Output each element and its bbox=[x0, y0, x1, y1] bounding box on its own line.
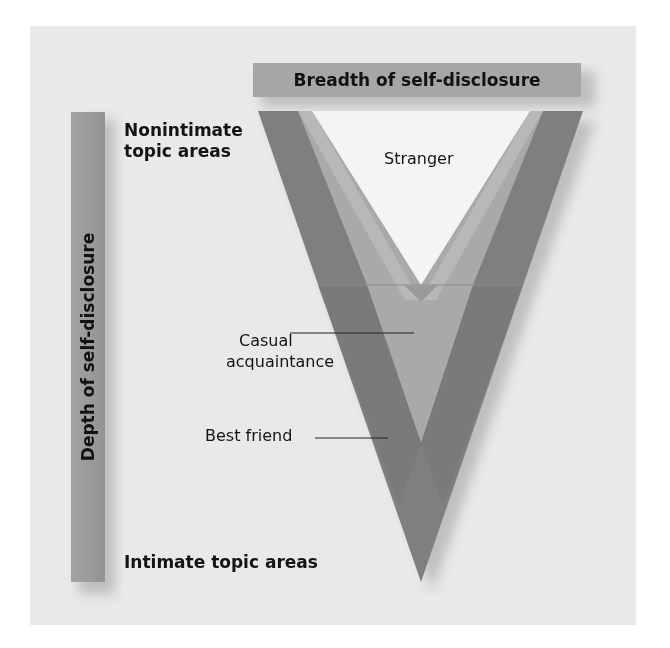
stranger-label: Stranger bbox=[384, 149, 454, 168]
depth-label: Depth of self-disclosure bbox=[78, 233, 98, 461]
nonintimate-line2: topic areas bbox=[124, 141, 243, 162]
breadth-label: Breadth of self-disclosure bbox=[253, 63, 581, 97]
social-penetration-diagram bbox=[0, 0, 670, 648]
nonintimate-label: Nonintimate topic areas bbox=[124, 120, 243, 162]
casual-line1: Casual bbox=[226, 330, 334, 351]
intimate-label: Intimate topic areas bbox=[124, 552, 318, 572]
casual-line2: acquaintance bbox=[226, 351, 334, 372]
casual-acquaintance-label: Casual acquaintance bbox=[226, 330, 334, 372]
best-friend-label: Best friend bbox=[205, 426, 292, 445]
nonintimate-line1: Nonintimate bbox=[124, 120, 243, 141]
